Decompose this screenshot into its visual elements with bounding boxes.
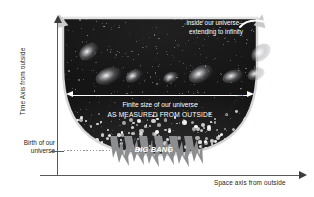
time-axis-line	[57, 22, 58, 176]
finite-size-measure-line	[72, 95, 248, 96]
big-bang-label: BIG BANG	[118, 145, 190, 154]
time-axis-label: Time Axis from outside	[19, 27, 26, 137]
finite-size-line1: Finite size of our universe	[72, 100, 248, 110]
birth-of-universe-tick	[51, 151, 64, 152]
space-axis-callout-line2: inside our universe—	[162, 19, 270, 27]
birth-of-universe-line2: universe	[3, 147, 55, 155]
space-axis-callout-line1: Space axis as seen from	[162, 11, 270, 19]
space-axis-label: Space axis from outside	[214, 179, 286, 186]
space-axis-callout: Space axis as seen from inside our unive…	[162, 11, 270, 36]
diagram-canvas: Space axis as seen from inside our unive…	[0, 0, 314, 197]
time-axis-arrow-icon	[54, 15, 62, 23]
finite-size-arrow-left-icon	[66, 91, 73, 97]
birth-of-universe-label: Birth of our universe	[3, 139, 55, 155]
space-axis-callout-line3: extending to infinity	[162, 28, 270, 36]
birth-of-universe-line1: Birth of our	[3, 139, 55, 147]
space-axis-line	[40, 175, 300, 176]
space-axis-arrow-icon	[299, 171, 307, 179]
birth-of-universe-dotted-line	[64, 150, 124, 151]
